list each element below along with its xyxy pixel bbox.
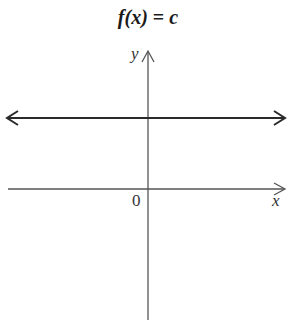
x-axis-label: x (272, 191, 280, 211)
x-axis (8, 183, 285, 195)
origin-label: 0 (132, 191, 141, 211)
constant-function-line (7, 111, 285, 125)
y-axis (142, 51, 154, 320)
constant-function-diagram: f(x) = c y x 0 (0, 0, 296, 321)
graph-svg (0, 0, 296, 321)
y-axis-label: y (131, 44, 139, 64)
